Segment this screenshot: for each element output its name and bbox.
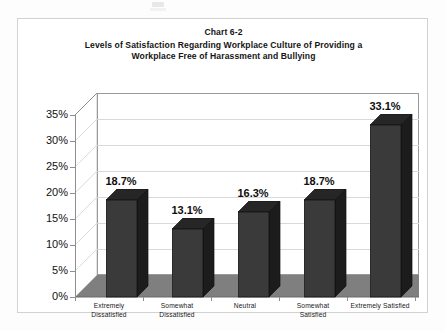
x-axis-label-neutral: Neutral	[212, 301, 278, 310]
x-axis-label-line-1: Somewhat	[280, 301, 346, 310]
x-axis-label-line-2: Dissatisfied	[76, 310, 142, 319]
chart-container: Chart 6-2 Levels of Satisfaction Regardi…	[17, 18, 428, 313]
bar-extremely-dissatisfied[interactable]	[106, 189, 149, 298]
x-axis-label-line-2: Satisfied	[280, 310, 346, 319]
x-axis-label-line-1: Extremely Satisfied	[338, 301, 422, 310]
x-axis-label-extremely-satisfied: Extremely Satisfied	[338, 301, 422, 310]
x-axis-label-extremely-dissatisfied: Extremely Dissatisfied	[76, 301, 142, 319]
bar-value-label-4: 18.7%	[286, 175, 352, 187]
x-axis-label-line-1: Somewhat	[144, 301, 210, 310]
bar-value-label-3: 16.3%	[220, 187, 286, 199]
bar-value-label-1: 18.7%	[88, 175, 154, 187]
bar-value-label-2: 13.1%	[154, 204, 220, 216]
bar-value-label-5: 33.1%	[352, 100, 418, 112]
x-axis-label-somewhat-satisfied: Somewhat Satisfied	[280, 301, 346, 319]
x-axis-label-somewhat-dissatisfied: Somewhat Dissatisfied	[144, 301, 210, 319]
x-axis-label-line-1: Extremely	[76, 301, 142, 310]
bar-somewhat-dissatisfied[interactable]	[172, 218, 215, 298]
bar-series: 18.7% 13.1% 16.3%	[18, 19, 429, 314]
scan-artifact	[152, 2, 164, 7]
scan-artifact	[150, 8, 166, 11]
bar-somewhat-satisfied[interactable]	[304, 189, 347, 298]
bar-neutral[interactable]	[238, 201, 281, 298]
plot-area: 35% 30% 25% 20% 15% 10% 5% 0% 18.7%	[18, 19, 429, 314]
x-axis-label-line-2: Dissatisfied	[144, 310, 210, 319]
bar-extremely-satisfied[interactable]	[370, 114, 413, 298]
x-axis-label-line-1: Neutral	[212, 301, 278, 310]
x-axis-labels: Extremely Dissatisfied Somewhat Dissatis…	[18, 301, 429, 331]
